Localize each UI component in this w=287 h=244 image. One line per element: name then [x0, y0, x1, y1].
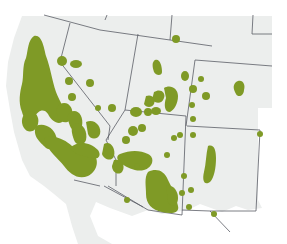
map-canvas — [0, 0, 287, 244]
range-map — [0, 0, 287, 244]
